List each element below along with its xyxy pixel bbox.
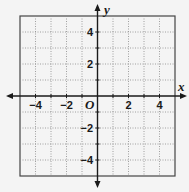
y-axis-down-arrow-icon bbox=[95, 181, 101, 188]
x-axis-label: x bbox=[177, 79, 185, 94]
origin-label: O bbox=[85, 97, 95, 112]
x-axis-left-arrow-icon bbox=[6, 93, 13, 99]
coordinate-plane: y x O −4 −2 2 4 4 2 −2 −4 bbox=[0, 0, 189, 192]
y-tick-label: 2 bbox=[87, 58, 93, 70]
y-axis-up-arrow-icon bbox=[95, 4, 101, 11]
x-tick-label: 2 bbox=[125, 99, 131, 111]
x-tick-label: −4 bbox=[29, 99, 42, 111]
x-tick-label: −2 bbox=[60, 99, 73, 111]
y-tick-label: 4 bbox=[87, 26, 94, 38]
y-axis-label: y bbox=[102, 2, 110, 17]
y-tick-label: −2 bbox=[80, 122, 93, 134]
y-tick-label: −4 bbox=[80, 154, 93, 166]
x-tick-label: 4 bbox=[156, 99, 163, 111]
